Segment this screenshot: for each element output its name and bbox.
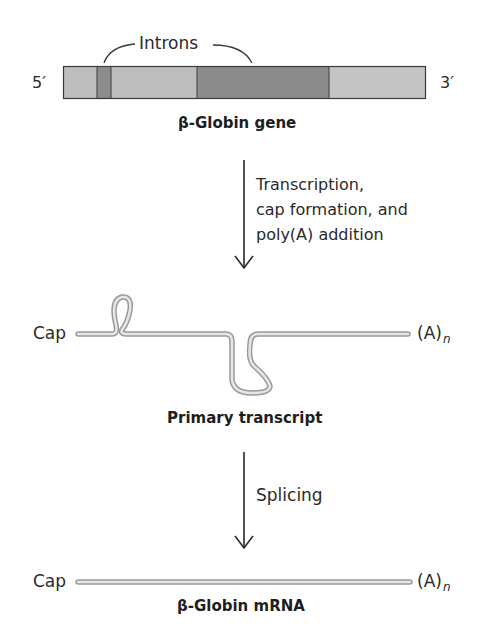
step1-line-2: cap formation, and	[256, 197, 408, 222]
exon-3	[329, 66, 426, 99]
step1-line-1: Transcription,	[256, 172, 408, 197]
transcription-step-label: Transcription, cap formation, and poly(A…	[256, 172, 408, 247]
primary-transcript-title: Primary transcript	[167, 411, 322, 426]
mrna-polya-label: (A)n	[417, 573, 451, 593]
polya-text: (A)	[417, 323, 442, 343]
primary-cap-label: Cap	[33, 325, 66, 342]
intron-pointer-left	[104, 44, 135, 63]
gene-title: β-Globin gene	[178, 116, 296, 131]
mrna-cap-label: Cap	[33, 573, 66, 590]
arrow-transcription	[235, 160, 253, 268]
five-prime-label: 5′	[32, 75, 46, 91]
exon-2	[111, 66, 197, 99]
introns-label: Introns	[139, 35, 198, 52]
exon-1	[63, 66, 97, 99]
primary-polya-label: (A)n	[417, 325, 451, 345]
arrow-splicing	[235, 452, 253, 548]
gene-bar	[63, 66, 426, 99]
splicing-step-label: Splicing	[256, 487, 323, 504]
primary-transcript-strand	[78, 297, 408, 393]
intron-2	[197, 66, 329, 99]
intron-1	[97, 66, 111, 99]
polya-text: (A)	[417, 571, 442, 591]
three-prime-label: 3′	[440, 75, 454, 91]
step1-line-3: poly(A) addition	[256, 222, 408, 247]
polya-subscript: n	[443, 580, 451, 594]
intron-pointer-right	[213, 45, 252, 63]
mrna-title: β-Globin mRNA	[177, 599, 305, 614]
diagram-canvas	[0, 0, 486, 637]
polya-subscript: n	[443, 332, 451, 346]
